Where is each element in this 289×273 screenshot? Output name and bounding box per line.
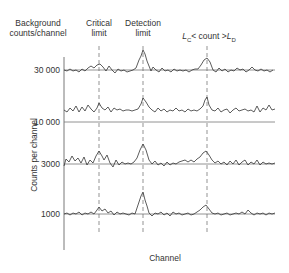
limit-markers: [99, 46, 207, 232]
chart-plot: [0, 0, 289, 273]
trace-1000: [64, 192, 275, 216]
trace-3000: [64, 144, 275, 167]
trace-10000: [64, 97, 275, 113]
baselines: [64, 70, 275, 214]
trace-30000: [64, 50, 273, 73]
traces: [64, 50, 275, 216]
